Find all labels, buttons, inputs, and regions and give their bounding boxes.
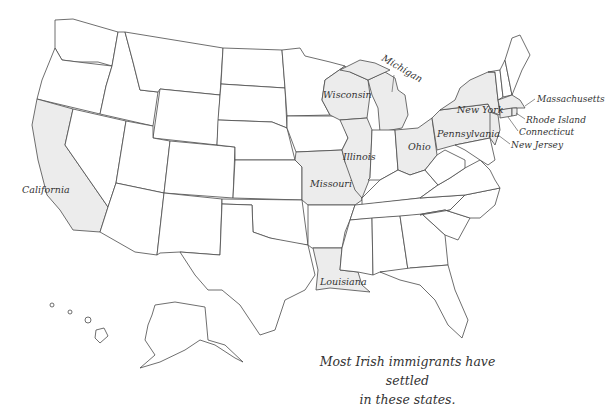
- leader-connecticut: [508, 117, 518, 131]
- state-montana: [125, 32, 223, 95]
- state-wyoming: [153, 89, 220, 145]
- caption: Most Irish immigrants have settled in th…: [300, 352, 515, 409]
- label-illinois: Illinois: [342, 151, 376, 162]
- caption-line-1: Most Irish immigrants have settled: [300, 352, 515, 390]
- state-florida: [380, 265, 468, 338]
- caption-line-2: in these states.: [300, 390, 515, 409]
- label-new-jersey: New Jersey: [510, 140, 564, 150]
- leader-rhode-island: [516, 113, 525, 119]
- label-rhode-island: Rhode Island: [525, 115, 586, 125]
- label-ohio: Ohio: [408, 141, 431, 152]
- us-map: California Wisconsin Michigan Illinois M…: [0, 0, 615, 410]
- state-north-dakota: [221, 48, 285, 88]
- label-louisiana: Louisiana: [319, 276, 367, 287]
- state-kansas: [233, 160, 302, 200]
- label-missouri: Missouri: [309, 178, 352, 189]
- leader-new-jersey: [498, 135, 510, 144]
- label-wisconsin: Wisconsin: [323, 89, 372, 100]
- label-new-york: New York: [456, 104, 504, 115]
- label-pennsylvania: Pennsylvania: [436, 128, 500, 139]
- state-new-mexico: [157, 193, 222, 255]
- label-massachusetts: Massachusetts: [536, 94, 605, 104]
- label-california: California: [22, 184, 70, 195]
- state-iowa: [287, 116, 348, 152]
- state-alaska: [140, 302, 243, 368]
- state-rhode-island: [512, 108, 517, 116]
- state-colorado: [164, 141, 235, 198]
- leader-massachusetts: [525, 99, 535, 106]
- label-connecticut: Connecticut: [519, 127, 575, 137]
- state-hawaii: [50, 303, 108, 343]
- state-michigan: [368, 72, 408, 132]
- state-washington: [55, 19, 118, 66]
